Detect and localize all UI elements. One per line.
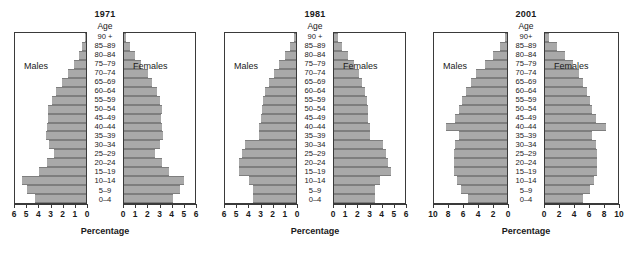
bar-males-40-44 <box>259 123 296 132</box>
age-band-label: 70–74 <box>297 68 333 77</box>
bar-females-40-44 <box>334 123 370 132</box>
bar-row <box>15 194 86 203</box>
bar-row <box>15 149 86 158</box>
bar-row <box>15 87 86 96</box>
bar-row <box>545 185 618 194</box>
axis-tick-label: 0 <box>85 209 90 219</box>
population-pyramid-figure: 1971 Age Males 90 +85–8980–8475–7970–746… <box>0 0 632 262</box>
age-band-label: 90 + <box>87 32 123 41</box>
bar-males-25-29 <box>454 149 507 158</box>
bar-males-65-69 <box>62 78 86 87</box>
bar-row <box>124 123 195 132</box>
age-band-label: 0–4 <box>297 195 333 204</box>
bar-row <box>334 149 405 158</box>
bar-males-30-34 <box>455 140 507 149</box>
bar-row <box>124 42 195 51</box>
bar-row <box>225 140 296 149</box>
bar-females-35-39 <box>545 131 592 140</box>
bar-females-90+ <box>545 33 549 42</box>
x-axis-2001: 1086420 0246810 <box>420 204 632 226</box>
axis-tick-label: 4 <box>246 209 251 219</box>
age-band-label: 75–79 <box>87 59 123 68</box>
bar-females-5-9 <box>545 185 590 194</box>
axis-tick-label: 3 <box>258 209 263 219</box>
age-band-label: 20–24 <box>297 159 333 168</box>
bar-row <box>15 51 86 60</box>
age-band-label: 40–44 <box>87 122 123 131</box>
bar-males-65-69 <box>471 78 508 87</box>
axis-baseline <box>123 204 196 205</box>
axis-tick-label: 3 <box>367 209 372 219</box>
bar-row <box>15 123 86 132</box>
bar-males-65-69 <box>269 78 296 87</box>
bar-row <box>334 114 405 123</box>
bar-row <box>334 51 405 60</box>
bar-males-80-84 <box>79 51 86 60</box>
females-plot-box-2001: Females <box>544 32 619 204</box>
females-plot-box-1971: Females <box>123 32 196 204</box>
bar-row <box>124 87 195 96</box>
age-band-label: 70–74 <box>508 68 544 77</box>
males-bars-2001 <box>434 33 507 203</box>
bar-row <box>124 167 195 176</box>
axis-tick-label: 3 <box>48 209 53 219</box>
females-plot-box-1981: Females <box>333 32 406 204</box>
age-band-label: 35–39 <box>508 132 544 141</box>
bar-row <box>334 123 405 132</box>
bar-row <box>124 140 195 149</box>
bar-males-70-74 <box>274 69 296 78</box>
axis-tick-label: 3 <box>157 209 162 219</box>
bar-males-55-59 <box>263 96 296 105</box>
age-band-label: 80–84 <box>297 50 333 59</box>
axis-tick-label: 0 <box>295 209 300 219</box>
axis-tick-label: 1 <box>72 209 77 219</box>
bar-row <box>434 176 507 185</box>
axis-tick-label: 2 <box>145 209 150 219</box>
axis-tick <box>508 204 509 208</box>
bar-males-75-79 <box>279 60 296 69</box>
axis-tick-label: 5 <box>24 209 29 219</box>
axis-tick-label: 8 <box>446 209 451 219</box>
bar-females-50-54 <box>124 105 162 114</box>
bar-males-30-34 <box>245 140 296 149</box>
bar-row <box>124 114 195 123</box>
axis-tick-label: 1 <box>343 209 348 219</box>
axis-tick-label: 2 <box>60 209 65 219</box>
x-axis-right-2001: 0246810 <box>544 204 619 226</box>
bar-row <box>545 87 618 96</box>
bar-females-90-+ <box>124 33 126 42</box>
axis-baseline <box>433 204 508 205</box>
age-band-label: 40–44 <box>508 122 544 131</box>
bar-males-30-34 <box>49 140 86 149</box>
males-label-1981: Males <box>234 61 258 71</box>
bar-females-85-89 <box>124 42 130 51</box>
bar-row <box>15 114 86 123</box>
males-plot-box-1971: Males <box>14 32 87 204</box>
bar-row <box>225 149 296 158</box>
axis-tick-label: 8 <box>602 209 607 219</box>
bar-row <box>545 33 618 42</box>
bar-females-30-34 <box>124 140 160 149</box>
panel-title-1981: 1981 <box>210 9 420 19</box>
axis-tick <box>619 204 620 208</box>
age-band-label: 50–54 <box>508 104 544 113</box>
bar-row <box>334 131 405 140</box>
males-bars-1971 <box>15 33 86 203</box>
bar-females-80-84 <box>124 51 135 60</box>
bar-females-55-59 <box>124 96 160 105</box>
bar-males-20-24 <box>239 158 296 167</box>
axis-tick-label: 4 <box>379 209 384 219</box>
bar-row <box>434 149 507 158</box>
males-plot-box-2001: Males <box>433 32 508 204</box>
bar-row <box>124 78 195 87</box>
age-band-label: 10–14 <box>87 177 123 186</box>
bar-males-10-14 <box>22 176 86 185</box>
bar-row <box>15 140 86 149</box>
age-axis-header-2001: Age <box>420 21 632 31</box>
bar-males-25-29 <box>54 149 86 158</box>
plot-area-2001: Males 90+85–8980–8475–7970–7465–6960–645… <box>420 32 632 204</box>
bar-females-60-64 <box>334 87 365 96</box>
axis-tick-label: 0 <box>331 209 336 219</box>
bar-males-90-+ <box>85 33 86 42</box>
bar-males-85-89 <box>290 42 296 51</box>
